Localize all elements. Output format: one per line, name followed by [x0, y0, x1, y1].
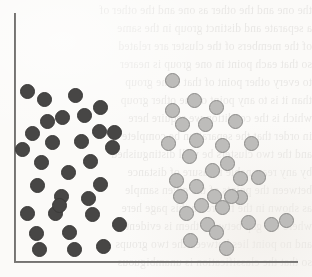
scatter-plot-figure: the one and the other as one and the oth…	[0, 0, 312, 277]
data-point-cluster-a	[83, 154, 98, 169]
data-point-cluster-b	[198, 117, 213, 132]
data-point-cluster-a	[93, 177, 108, 192]
data-point-cluster-a	[30, 178, 45, 193]
data-point-cluster-a	[112, 217, 127, 232]
data-point-cluster-b	[279, 213, 294, 228]
data-point-cluster-b	[173, 189, 188, 204]
data-point-cluster-a	[52, 198, 67, 213]
data-point-cluster-a	[62, 225, 77, 240]
data-point-cluster-b	[187, 93, 202, 108]
data-point-cluster-a	[85, 207, 100, 222]
data-point-cluster-a	[61, 165, 76, 180]
data-point-cluster-b	[165, 103, 180, 118]
data-point-cluster-b	[209, 100, 224, 115]
data-point-cluster-a	[68, 88, 83, 103]
data-point-cluster-b	[194, 198, 209, 213]
data-point-cluster-b	[175, 117, 190, 132]
data-point-cluster-b	[264, 217, 279, 232]
data-point-cluster-b	[233, 171, 248, 186]
data-point-cluster-a	[93, 100, 108, 115]
data-point-cluster-b	[228, 114, 243, 129]
data-point-cluster-b	[189, 179, 204, 194]
data-point-cluster-a	[96, 239, 111, 254]
data-point-cluster-b	[241, 215, 256, 230]
data-point-cluster-a	[20, 206, 35, 221]
data-point-cluster-a	[29, 226, 44, 241]
data-point-cluster-a	[92, 124, 107, 139]
data-point-cluster-b	[215, 138, 230, 153]
data-point-cluster-a	[37, 92, 52, 107]
data-point-cluster-a	[105, 140, 120, 155]
data-point-cluster-b	[251, 170, 266, 185]
data-point-cluster-b	[224, 189, 239, 204]
data-point-cluster-a	[67, 242, 82, 257]
data-point-cluster-a	[74, 134, 89, 149]
data-point-cluster-a	[40, 114, 55, 129]
data-point-cluster-b	[161, 136, 176, 151]
data-point-cluster-b	[165, 73, 180, 88]
data-point-cluster-a	[25, 126, 40, 141]
data-point-cluster-a	[20, 84, 35, 99]
data-point-cluster-a	[15, 142, 30, 157]
data-point-cluster-a	[34, 155, 49, 170]
data-point-cluster-a	[55, 110, 70, 125]
data-point-cluster-b	[220, 156, 235, 171]
data-point-cluster-a	[32, 242, 47, 257]
data-point-cluster-a	[77, 108, 92, 123]
data-point-cluster-a	[107, 125, 122, 140]
data-point-cluster-b	[219, 241, 234, 256]
data-point-cluster-b	[182, 149, 197, 164]
data-point-cluster-b	[179, 206, 194, 221]
data-point-cluster-b	[183, 233, 198, 248]
x-axis-line	[14, 261, 298, 263]
data-point-cluster-a	[81, 191, 96, 206]
y-axis-line	[14, 13, 16, 263]
plot-area	[0, 0, 312, 277]
data-point-cluster-b	[189, 133, 204, 148]
data-point-cluster-b	[244, 136, 259, 151]
data-point-cluster-b	[205, 163, 220, 178]
data-point-cluster-a	[45, 135, 60, 150]
data-point-cluster-b	[209, 225, 224, 240]
data-point-cluster-b	[169, 173, 184, 188]
